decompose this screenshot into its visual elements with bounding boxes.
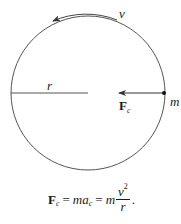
formula-equals-2: = bbox=[95, 192, 102, 208]
formula-period: . bbox=[132, 192, 135, 208]
force-label-subscript: c bbox=[127, 106, 131, 115]
formula-equals-1: = bbox=[63, 192, 70, 208]
force-label-main: F bbox=[119, 98, 127, 113]
centripetal-force-formula: Fc = mac = m v2 r . bbox=[48, 184, 135, 216]
mass-label: m bbox=[170, 95, 179, 108]
velocity-label: v bbox=[119, 7, 125, 20]
force-label: Fc bbox=[119, 99, 131, 112]
formula-acceleration-subscript: c bbox=[89, 199, 93, 208]
formula-mass-2: m bbox=[106, 192, 115, 208]
formula-denominator: r bbox=[120, 200, 125, 214]
formula-force: F bbox=[48, 192, 56, 208]
formula-force-subscript: c bbox=[56, 199, 60, 208]
formula-fraction: v2 r bbox=[116, 185, 130, 214]
formula-exponent: 2 bbox=[124, 182, 128, 191]
formula-numerator: v2 bbox=[116, 185, 130, 199]
formula-velocity: v bbox=[118, 184, 124, 199]
radius-label: r bbox=[47, 79, 52, 92]
mass-point bbox=[162, 91, 166, 95]
formula-mass-1: m bbox=[73, 192, 82, 208]
